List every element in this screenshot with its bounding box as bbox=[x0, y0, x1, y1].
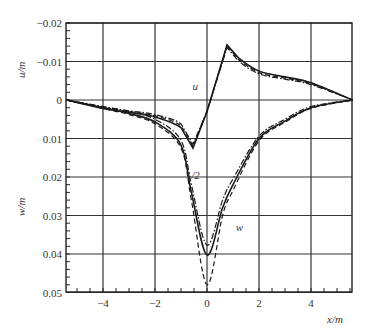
w-axis-label: w/m bbox=[15, 198, 27, 216]
y-tick-label: 0.01 bbox=[43, 133, 62, 145]
series-line bbox=[67, 100, 353, 255]
grid-lines bbox=[66, 23, 352, 293]
x-axis-label: x/m bbox=[326, 313, 343, 325]
series-line bbox=[67, 100, 353, 285]
y-tick-label: −0.02 bbox=[37, 17, 62, 29]
y-tick-label: −0.01 bbox=[37, 56, 62, 68]
u-axis-label: u/m bbox=[15, 61, 27, 78]
series-line bbox=[67, 100, 353, 245]
series-line bbox=[67, 45, 353, 148]
x-tick-label: −4 bbox=[97, 297, 109, 309]
curve-label: u bbox=[193, 80, 199, 92]
curve-label: w bbox=[236, 221, 244, 233]
x-tick-label: −2 bbox=[149, 297, 161, 309]
plot-frame bbox=[66, 23, 352, 292]
x-tick-label: 4 bbox=[308, 297, 314, 309]
data-series bbox=[67, 45, 353, 285]
chart: −4−2024−0.02−0.0100.010.020.030.040.05 x… bbox=[0, 0, 367, 334]
axes bbox=[66, 23, 352, 293]
y-tick-label: 0.05 bbox=[43, 287, 63, 299]
y-tick-label: 0.04 bbox=[43, 248, 63, 260]
y-tick-label: 0 bbox=[57, 94, 63, 106]
x-tick-label: 0 bbox=[204, 297, 210, 309]
curve-label: 1/2 bbox=[186, 169, 201, 181]
y-tick-label: 0.03 bbox=[43, 210, 63, 222]
y-tick-label: 0.02 bbox=[43, 171, 62, 183]
x-tick-label: 2 bbox=[256, 297, 262, 309]
tick-labels: −4−2024−0.02−0.0100.010.020.030.040.05 bbox=[37, 17, 315, 309]
series-line bbox=[67, 48, 353, 145]
